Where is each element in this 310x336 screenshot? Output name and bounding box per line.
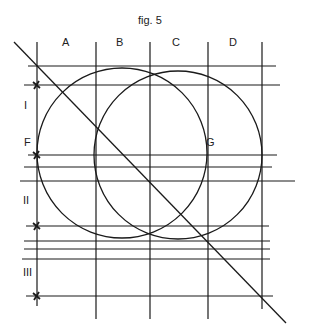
column-label-a: A — [62, 37, 69, 48]
geometric-construction-diagram — [0, 0, 310, 336]
column-label-b: B — [116, 37, 123, 48]
horizontal-grid-lines — [20, 66, 295, 296]
column-label-d: D — [229, 37, 237, 48]
column-label-c: C — [172, 37, 180, 48]
row-label-iii: III — [23, 267, 32, 278]
point-label-g: G — [206, 137, 215, 148]
row-label-ii: II — [23, 195, 29, 206]
row-label-i: I — [24, 100, 27, 111]
figure-title: fig. 5 — [138, 15, 162, 26]
point-label-f: F — [24, 137, 31, 148]
